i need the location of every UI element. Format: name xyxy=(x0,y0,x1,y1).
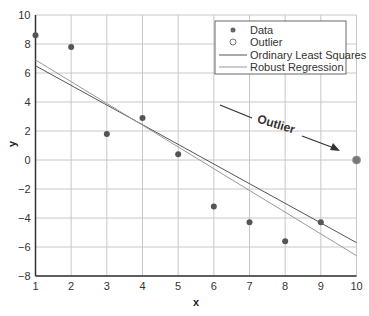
outlier-marker-icon xyxy=(230,39,236,45)
annotation-line xyxy=(220,105,252,118)
outlier-point xyxy=(353,156,361,164)
data-point xyxy=(33,32,39,38)
x-tick-label: 6 xyxy=(211,280,217,292)
x-tick-label: 7 xyxy=(246,280,252,292)
x-tick-label: 4 xyxy=(139,280,145,292)
data-point xyxy=(175,151,181,157)
y-tick-label: 4 xyxy=(24,96,30,108)
x-tick-label: 10 xyxy=(350,280,362,292)
data-point xyxy=(318,219,324,225)
legend: Data Outlier Ordinary Least Squares Robu… xyxy=(215,21,367,74)
legend-data: Data xyxy=(250,24,274,36)
regression-chart: 12345678910 −8−6−4−20246810 x y Outlier … xyxy=(0,0,369,316)
regression-lines xyxy=(36,60,357,256)
outlier-annotation: Outlier xyxy=(220,105,340,151)
data-point xyxy=(247,219,253,225)
legend-robust: Robust Regression xyxy=(250,61,344,73)
x-tick-label: 2 xyxy=(68,280,74,292)
robust-regression-line xyxy=(36,60,357,256)
annotation-arrow-line xyxy=(302,136,334,148)
y-tick-label: 6 xyxy=(24,67,30,79)
data-point xyxy=(211,203,217,209)
legend-outlier: Outlier xyxy=(250,36,283,48)
y-axis-label: y xyxy=(6,140,18,147)
ordinary-least-squares-line xyxy=(36,66,357,243)
y-tick-label: 0 xyxy=(24,154,30,166)
arrowhead-icon xyxy=(330,143,340,151)
data-point xyxy=(68,44,74,50)
y-tick-label: −4 xyxy=(18,212,31,224)
data-point xyxy=(104,131,110,137)
x-axis-label: x xyxy=(193,296,200,308)
x-tick-label: 5 xyxy=(175,280,181,292)
y-tick-label: −2 xyxy=(18,183,31,195)
y-tick-label: 2 xyxy=(24,125,30,137)
legend-ols: Ordinary Least Squares xyxy=(250,49,367,61)
x-tick-label: 9 xyxy=(318,280,324,292)
annotation-text: Outlier xyxy=(256,112,297,137)
y-tick-labels: −8−6−4−20246810 xyxy=(18,9,31,282)
data-point xyxy=(282,238,288,244)
y-tick-label: −6 xyxy=(18,241,31,253)
y-tick-label: 8 xyxy=(24,38,30,50)
x-tick-label: 3 xyxy=(104,280,110,292)
data-point xyxy=(140,115,146,121)
x-tick-label: 1 xyxy=(32,280,38,292)
y-tick-label: −8 xyxy=(18,270,31,282)
x-tick-label: 8 xyxy=(282,280,288,292)
x-tick-labels: 12345678910 xyxy=(32,280,362,292)
data-marker-icon xyxy=(231,28,236,33)
y-tick-label: 10 xyxy=(18,9,30,21)
